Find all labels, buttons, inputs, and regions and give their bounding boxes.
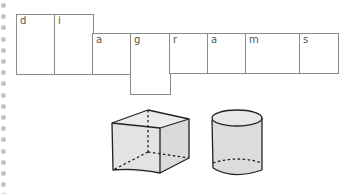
cylinder-drawing <box>212 110 262 175</box>
cube-drawing <box>112 110 189 173</box>
shape-illustrations <box>0 0 350 194</box>
